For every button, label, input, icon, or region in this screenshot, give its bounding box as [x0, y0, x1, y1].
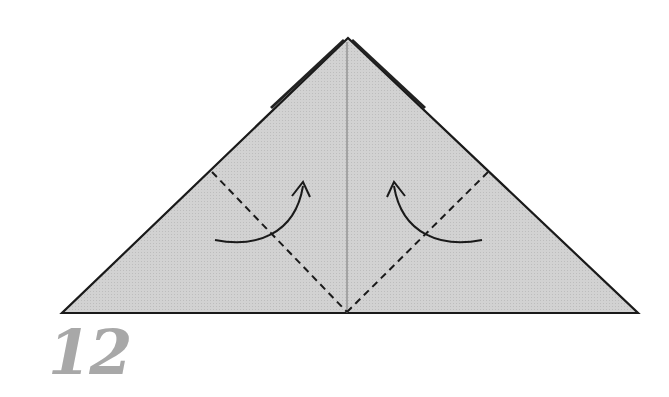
step-number: 12	[48, 322, 130, 384]
paper-triangle	[62, 38, 638, 313]
